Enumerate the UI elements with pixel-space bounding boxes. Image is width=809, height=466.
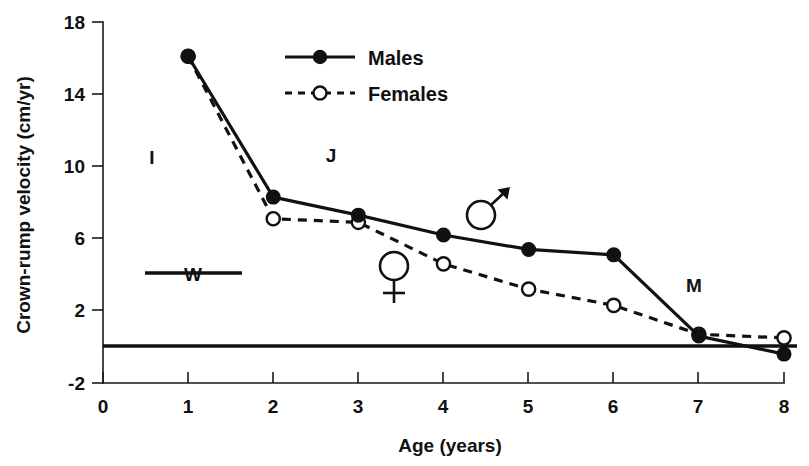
y-tick-label-2: 2 bbox=[74, 300, 85, 321]
data-point bbox=[266, 190, 280, 204]
annotation-juvenile: J bbox=[326, 145, 337, 166]
y-tick-label-10: 10 bbox=[64, 156, 85, 177]
x-tick-label-7: 7 bbox=[693, 396, 704, 417]
y-axis-group: 18 14 10 6 2 -2 Crown-rump velocity (cm/… bbox=[13, 12, 103, 394]
data-point bbox=[607, 299, 620, 312]
chart-canvas: 18 14 10 6 2 -2 Crown-rump velocity (cm/… bbox=[0, 0, 809, 466]
legend-females-marker bbox=[314, 87, 327, 100]
x-tick-label-5: 5 bbox=[523, 396, 534, 417]
data-series-layer bbox=[181, 49, 790, 360]
weaning-label: W bbox=[184, 264, 202, 285]
annotation-infant: I bbox=[149, 147, 154, 168]
data-point bbox=[352, 208, 366, 222]
y-tick-label-18: 18 bbox=[64, 12, 85, 33]
x-tick-label-8: 8 bbox=[779, 396, 790, 417]
x-tick-label-6: 6 bbox=[608, 396, 619, 417]
males-marker-group bbox=[181, 49, 790, 360]
female-symbol-icon bbox=[380, 252, 408, 303]
chart-legend: Males Females bbox=[285, 47, 448, 105]
data-point bbox=[692, 329, 706, 343]
data-point bbox=[437, 257, 450, 270]
data-point bbox=[522, 243, 536, 257]
males-series-line bbox=[188, 56, 784, 354]
data-point bbox=[522, 283, 535, 296]
y-tick-label-6: 6 bbox=[74, 228, 85, 249]
data-point bbox=[607, 248, 621, 262]
x-axis-group: 0 1 2 3 4 5 6 7 8 Age (years) bbox=[98, 372, 790, 456]
annotation-mature: M bbox=[686, 275, 702, 296]
legend-females-label: Females bbox=[368, 83, 448, 105]
data-point bbox=[777, 331, 790, 344]
x-tick-label-2: 2 bbox=[268, 396, 279, 417]
legend-males-marker bbox=[314, 51, 327, 64]
y-axis-title: Crown-rump velocity (cm/yr) bbox=[13, 76, 34, 334]
data-point bbox=[437, 228, 451, 242]
x-tick-label-0: 0 bbox=[98, 396, 109, 417]
y-tick-label-minus2: -2 bbox=[68, 373, 85, 394]
data-point bbox=[181, 49, 195, 63]
x-tick-label-3: 3 bbox=[353, 396, 364, 417]
weaning-indicator: W bbox=[145, 264, 242, 285]
x-tick-label-4: 4 bbox=[438, 396, 449, 417]
y-tick-label-14: 14 bbox=[64, 84, 86, 105]
legend-males-label: Males bbox=[368, 47, 424, 69]
legend-entry-females: Females bbox=[285, 83, 448, 105]
data-point bbox=[777, 347, 791, 361]
growth-velocity-chart: 18 14 10 6 2 -2 Crown-rump velocity (cm/… bbox=[0, 0, 809, 466]
data-point bbox=[267, 212, 280, 225]
x-axis-title: Age (years) bbox=[398, 435, 502, 456]
legend-entry-males: Males bbox=[285, 47, 424, 69]
x-tick-label-1: 1 bbox=[183, 396, 194, 417]
male-symbol-icon bbox=[467, 188, 509, 229]
